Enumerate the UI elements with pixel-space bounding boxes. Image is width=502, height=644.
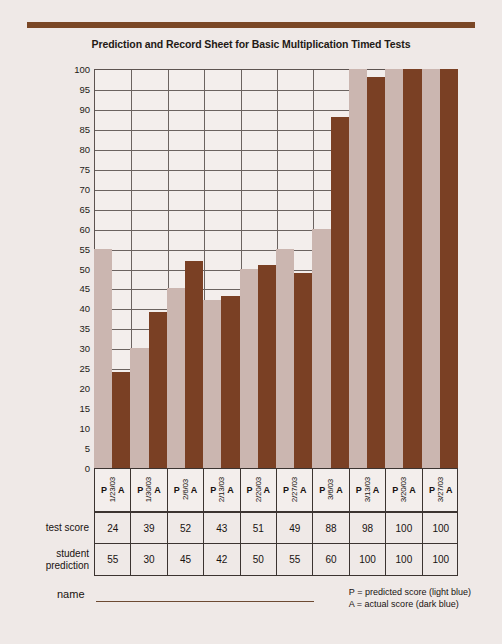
bar-actual (112, 372, 130, 468)
bar-group (349, 69, 385, 468)
x-axis-date-label: 1/23/03 (108, 477, 117, 502)
row-label-student-prediction: student prediction (17, 548, 89, 572)
actual-marker: A (373, 486, 380, 495)
bar-actual (185, 261, 203, 468)
bar-predicted (203, 300, 221, 468)
y-axis-tick-label: 40 (56, 303, 90, 314)
x-axis-date-label: 2/6/03 (181, 479, 190, 500)
bar-group (167, 69, 203, 468)
table-cell: 51 (241, 513, 277, 543)
table-cell: 55 (95, 544, 131, 575)
y-axis-tick-label: 100 (56, 64, 90, 75)
y-axis-tick-label: 80 (56, 143, 90, 154)
bar-actual (440, 69, 458, 468)
y-axis: 0510152025303540455055606570758085909510… (52, 69, 90, 468)
table-cell: 55 (277, 544, 313, 575)
row-label-test-score: test score (17, 522, 89, 534)
table-cell: 100 (386, 544, 422, 575)
bar-predicted (130, 348, 148, 468)
bar-actual (367, 77, 385, 468)
x-axis-date-label: 2/20/03 (254, 477, 263, 502)
table-cell: 60 (313, 544, 349, 575)
bar-predicted (276, 249, 294, 468)
data-table: test score 2439524351498898100100 studen… (94, 512, 458, 576)
legend-item-predicted: P = predicted score (light blue) (349, 586, 471, 598)
predicted-marker: P (247, 486, 253, 495)
x-axis-cell: P2/13/03A (204, 469, 240, 511)
y-axis-tick-label: 35 (56, 323, 90, 334)
bar-actual (294, 273, 312, 469)
y-axis-tick-label: 45 (56, 283, 90, 294)
bar-predicted (422, 69, 440, 468)
table-cell: 100 (423, 544, 459, 575)
legend-item-actual: A = actual score (dark blue) (349, 598, 471, 610)
table-cell: 52 (168, 513, 204, 543)
y-axis-tick-label: 50 (56, 263, 90, 274)
x-axis-cell: P1/23/03A (95, 469, 131, 511)
y-axis-tick-label: 10 (56, 423, 90, 434)
y-axis-tick-label: 15 (56, 403, 90, 414)
bar-series-container (94, 69, 458, 468)
x-axis-cell: P3/13/03A (350, 469, 386, 511)
y-axis-tick-label: 0 (56, 463, 90, 474)
y-axis-tick-label: 20 (56, 383, 90, 394)
predicted-marker: P (137, 486, 143, 495)
footer: name P = predicted score (light blue) A … (27, 586, 475, 620)
table-cell: 30 (131, 544, 167, 575)
actual-marker: A (264, 486, 271, 495)
table-cell: 39 (131, 513, 167, 543)
predicted-marker: P (319, 486, 325, 495)
predicted-marker: P (392, 486, 398, 495)
x-axis-cell: P2/27/03A (277, 469, 313, 511)
bar-group (240, 69, 276, 468)
name-label: name (57, 588, 85, 600)
table-row-student-prediction: student prediction 553045425055601001001… (94, 544, 458, 576)
bar-predicted (385, 69, 403, 468)
table-cell: 100 (423, 513, 459, 543)
x-axis-date-label: 2/27/03 (290, 477, 299, 502)
table-row-test-score: test score 2439524351498898100100 (94, 512, 458, 544)
bar-group (203, 69, 239, 468)
bar-chart (94, 69, 458, 468)
x-axis-cell: P1/30/03A (131, 469, 167, 511)
y-axis-tick-label: 90 (56, 103, 90, 114)
y-axis-tick-label: 65 (56, 203, 90, 214)
predicted-marker: P (210, 486, 216, 495)
actual-marker: A (154, 486, 161, 495)
legend: P = predicted score (light blue) A = act… (349, 586, 471, 610)
y-axis-tick-label: 70 (56, 183, 90, 194)
name-write-line[interactable] (96, 601, 314, 602)
y-axis-tick-label: 95 (56, 83, 90, 94)
x-axis-cell: P3/27/03A (423, 469, 459, 511)
bar-actual (403, 69, 421, 468)
actual-marker: A (227, 486, 234, 495)
actual-marker: A (118, 486, 125, 495)
bar-actual (221, 296, 239, 468)
x-axis-date-label: 2/13/03 (217, 477, 226, 502)
table-cell: 88 (313, 513, 349, 543)
bar-actual (149, 312, 167, 468)
x-axis-date-label: 3/6/03 (326, 479, 335, 500)
table-cell: 100 (386, 513, 422, 543)
x-axis-date-label: 3/13/03 (363, 477, 372, 502)
table-cell: 100 (350, 544, 386, 575)
table-cell: 42 (204, 544, 240, 575)
bar-actual (258, 265, 276, 468)
bar-actual (331, 117, 349, 468)
table-cell: 43 (204, 513, 240, 543)
worksheet-page: Prediction and Record Sheet for Basic Mu… (0, 0, 502, 644)
bar-predicted (240, 269, 258, 469)
x-axis-cell: P3/20/03A (386, 469, 422, 511)
table-cell: 24 (95, 513, 131, 543)
y-axis-tick-label: 75 (56, 163, 90, 174)
actual-marker: A (300, 486, 307, 495)
x-axis-date-label: 3/20/03 (399, 477, 408, 502)
x-axis-cell: P3/6/03A (313, 469, 349, 511)
bar-group (312, 69, 348, 468)
bar-group (94, 69, 130, 468)
bar-group (130, 69, 166, 468)
x-axis-date-label: 1/30/03 (144, 477, 153, 502)
predicted-marker: P (101, 486, 107, 495)
x-axis-date-label: 3/27/03 (436, 477, 445, 502)
bar-predicted (349, 69, 367, 468)
